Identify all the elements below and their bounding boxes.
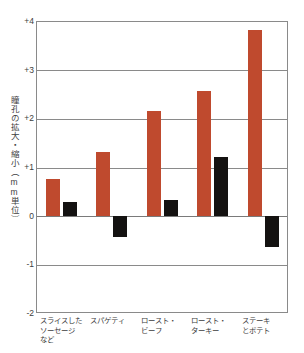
x-tick-label-0: スライスした ソーセージ など bbox=[40, 316, 96, 345]
plot-area bbox=[36, 21, 288, 313]
y-tick-label-5: -1 bbox=[4, 260, 34, 269]
x-tick-label-4: ステーキ とポテト bbox=[242, 316, 298, 335]
zero-gridline bbox=[37, 216, 287, 217]
gridline-2 bbox=[37, 119, 287, 120]
y-tick-label-0: +4 bbox=[4, 17, 34, 26]
y-tick-label-6: -2 bbox=[4, 309, 34, 318]
y-axis-tick-labels: +4+3+2+10-1-2 bbox=[0, 21, 34, 313]
y-tick-label-1: +3 bbox=[4, 66, 34, 75]
x-tick-label-1: スパゲティ bbox=[90, 316, 146, 326]
chart-figure: 瞳孔の拡大・縮小（mm単位） +4+3+2+10-1-2 スライスした ソーセー… bbox=[0, 0, 304, 353]
y-tick-label-4: 0 bbox=[4, 212, 34, 221]
x-tick-label-3: ロースト・ ターキー bbox=[191, 316, 247, 335]
x-axis-tick-labels: スライスした ソーセージ などスパゲティロースト・ ビーフロースト・ ターキース… bbox=[36, 316, 288, 353]
gridline-3 bbox=[37, 70, 287, 71]
x-tick-label-2: ロースト・ ビーフ bbox=[141, 316, 197, 335]
y-tick-label-2: +2 bbox=[4, 114, 34, 123]
y-tick-label-3: +1 bbox=[4, 163, 34, 172]
gridline-1 bbox=[37, 168, 287, 169]
gridline--1 bbox=[37, 265, 287, 266]
